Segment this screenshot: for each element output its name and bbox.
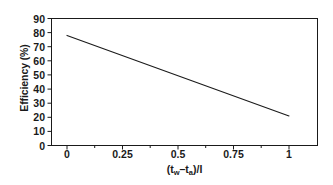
x-axis-label: (tw–ta)/I bbox=[51, 163, 318, 175]
x-axis-label-sub-w: w bbox=[174, 168, 180, 177]
x-tick-label: 0 bbox=[47, 149, 87, 160]
x-axis-label-sub-a: a bbox=[189, 168, 193, 177]
x-axis-label-close: )/I bbox=[193, 163, 202, 175]
chart-figure: Efficiency (%) 0 10 20 30 40 50 60 70 80… bbox=[0, 0, 333, 185]
x-tick-label: 0.75 bbox=[214, 149, 254, 160]
x-tick-label: 0.25 bbox=[103, 149, 143, 160]
x-tick-label: 0.5 bbox=[158, 149, 198, 160]
x-axis-tick-labels: 0 0.25 0.5 0.75 1 bbox=[0, 0, 333, 185]
x-axis-label-open: (t bbox=[167, 163, 174, 175]
x-tick-label: 1 bbox=[269, 149, 309, 160]
